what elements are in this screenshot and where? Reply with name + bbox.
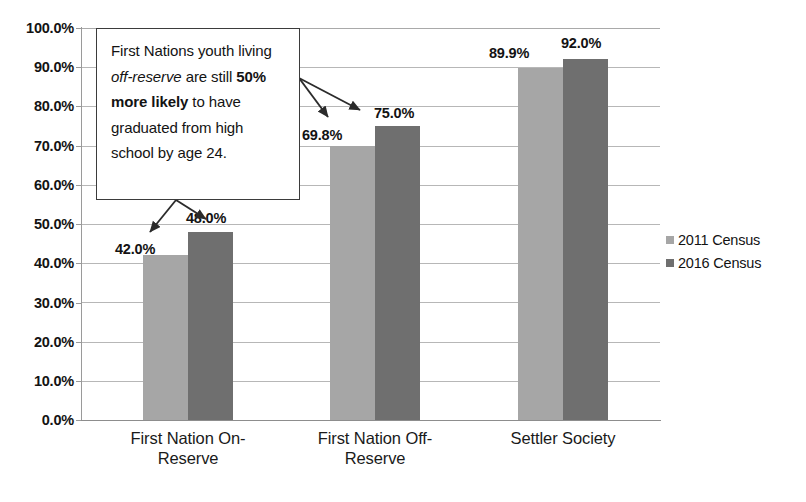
- category-label-line2: Reserve: [295, 448, 455, 468]
- bar-value-2011-on-reserve: 42.0%: [115, 242, 155, 257]
- chart-screenshot: 100.0% 90.0% 80.0% 70.0% 60.0% 50.0% 40.…: [0, 0, 806, 502]
- bar-2011-first-nation-off-reserve[interactable]: [330, 146, 375, 420]
- y-tick-label: 80.0%: [4, 99, 74, 114]
- annotation-part-italic: off-reserve: [111, 68, 182, 85]
- bar-value-2016-settler: 92.0%: [561, 36, 601, 51]
- y-tick-label: 30.0%: [4, 296, 74, 311]
- category-label-first-nation-on-reserve: First Nation On- Reserve: [108, 428, 268, 468]
- y-tick-label: 60.0%: [4, 178, 74, 193]
- y-tick-label: 100.0%: [4, 21, 74, 36]
- bar-2016-first-nation-off-reserve[interactable]: [375, 126, 420, 420]
- legend: 2011 Census 2016 Census: [666, 228, 800, 274]
- bar-2016-settler-society[interactable]: [563, 59, 608, 420]
- y-tick-label: 0.0%: [4, 413, 74, 428]
- y-tick-label: 70.0%: [4, 139, 74, 154]
- x-axis-line: [81, 420, 661, 421]
- y-tick-label: 50.0%: [4, 217, 74, 232]
- category-label-settler-society: Settler Society: [483, 428, 643, 448]
- category-label-line1: First Nation Off-: [295, 428, 455, 448]
- y-tick-label: 10.0%: [4, 374, 74, 389]
- legend-swatch-icon: [666, 236, 674, 244]
- annotation-part-1: First Nations youth living: [111, 42, 272, 59]
- annotation-part-3: are still: [182, 68, 237, 85]
- bar-value-2011-off-reserve: 69.8%: [302, 128, 342, 143]
- legend-item-2016-census[interactable]: 2016 Census: [666, 251, 800, 274]
- legend-label: 2011 Census: [678, 232, 760, 248]
- bar-value-2016-on-reserve: 48.0%: [186, 211, 226, 226]
- y-tick-label: 20.0%: [4, 335, 74, 350]
- annotation-callout-box: First Nations youth living off-reserve a…: [96, 28, 300, 200]
- category-label-first-nation-off-reserve: First Nation Off- Reserve: [295, 428, 455, 468]
- y-tick-label: 40.0%: [4, 256, 74, 271]
- bar-2011-first-nation-on-reserve[interactable]: [143, 255, 188, 420]
- bar-value-2011-settler: 89.9%: [489, 46, 529, 61]
- category-label-line1: Settler Society: [483, 428, 643, 448]
- y-tick-label: 90.0%: [4, 60, 74, 75]
- bar-2011-settler-society[interactable]: [518, 68, 563, 420]
- y-axis-labels: 100.0% 90.0% 80.0% 70.0% 60.0% 50.0% 40.…: [0, 0, 74, 502]
- bar-2016-first-nation-on-reserve[interactable]: [188, 232, 233, 420]
- legend-label: 2016 Census: [678, 255, 761, 271]
- category-label-line1: First Nation On-: [108, 428, 268, 448]
- bar-value-2016-off-reserve: 75.0%: [374, 106, 414, 121]
- legend-swatch-icon: [666, 259, 674, 267]
- legend-item-2011-census[interactable]: 2011 Census: [666, 228, 800, 251]
- annotation-text: First Nations youth living off-reserve a…: [111, 38, 287, 166]
- category-label-line2: Reserve: [108, 448, 268, 468]
